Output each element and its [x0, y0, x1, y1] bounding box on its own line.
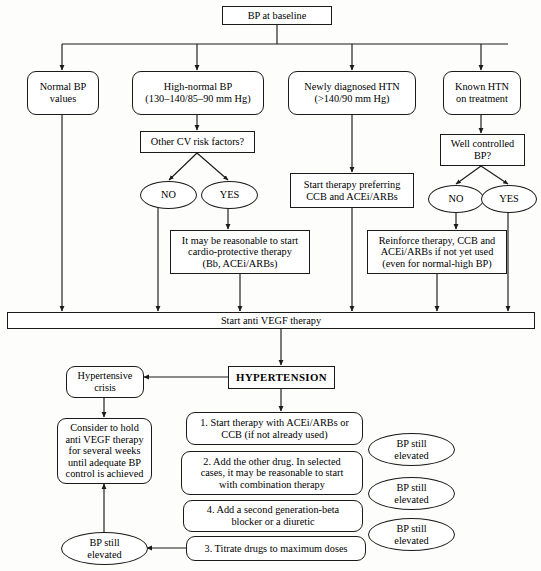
node-high-normal-bp: High-normal BP (130–140/85–90 mm Hg) — [132, 71, 264, 115]
node-well-controlled-yes: YES — [481, 185, 537, 213]
node-start-therapy-preferring: Start therapy preferring CCB and ACEi/AR… — [290, 173, 414, 208]
node-step-2-add-other-drug: 2. Add the other drug. In selected cases… — [181, 451, 363, 495]
node-step-3-titrate-drugs: 3. Titrate drugs to maximum doses — [186, 536, 366, 561]
node-cv-risk-yes: YES — [201, 181, 258, 209]
node-hypertensive-crisis: Hypertensive crisis — [66, 366, 144, 398]
node-hypertension: HYPERTENSION — [228, 366, 335, 389]
node-normal-bp-values: Normal BP values — [27, 71, 99, 115]
node-step-4-add-beta-blocker: 4. Add a second generation-beta blocker … — [183, 500, 363, 532]
node-consider-hold-anti-vegf: Consider to hold anti VEGF therapy for s… — [57, 418, 152, 484]
node-reinforce-therapy: Reinforce therapy, CCB and ACEi/ARBs if … — [367, 230, 507, 274]
node-other-cv-risk-factors: Other CV risk factors? — [140, 131, 255, 153]
node-bp-still-elevated-left: BP still elevated — [61, 532, 148, 565]
node-bp-still-elevated-2: BP still elevated — [368, 477, 455, 510]
node-known-htn-on-treatment: Known HTN on treatment — [443, 71, 521, 115]
node-cv-risk-no: NO — [140, 181, 197, 209]
node-bp-still-elevated-3: BP still elevated — [368, 518, 455, 551]
node-well-controlled-no: NO — [428, 185, 484, 213]
node-cardio-protective-therapy: It may be reasonable to start cardio-pro… — [170, 230, 310, 274]
node-bp-at-baseline: BP at baseline — [222, 6, 332, 25]
node-newly-diagnosed-htn: Newly diagnosed HTN (>140/90 mm Hg) — [288, 71, 416, 115]
node-well-controlled-bp: Well controlled BP? — [440, 134, 525, 166]
node-start-anti-vegf-therapy: Start anti VEGF therapy — [7, 312, 535, 329]
node-bp-still-elevated-1: BP still elevated — [368, 433, 455, 466]
flowchart-canvas: BP at baseline Normal BP values High-nor… — [0, 0, 541, 571]
node-step-1-start-therapy: 1. Start therapy with ACEi/ARBs or CCB (… — [186, 412, 363, 445]
